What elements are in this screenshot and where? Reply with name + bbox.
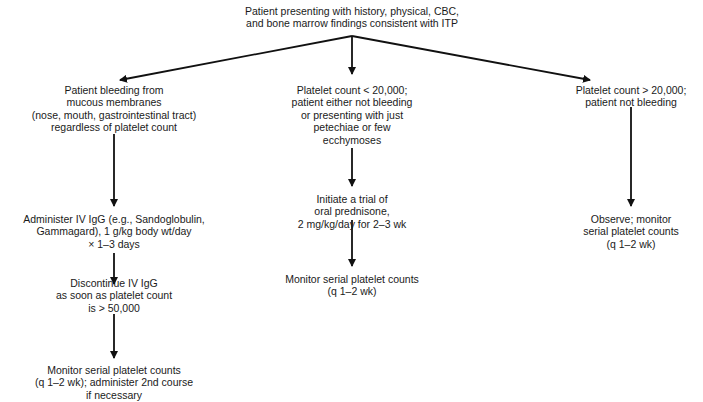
right-node-observe: Observe; monitor serial platelet counts … xyxy=(561,213,701,250)
middle-node-prednisone: Initiate a trial of oral prednisone, 2 m… xyxy=(272,193,432,230)
left-node-monitor-second-course: Monitor serial platelet counts (q 1–2 wk… xyxy=(4,364,224,401)
left-node-discontinue-ivig: Discontinue IV IgG as soon as platelet c… xyxy=(4,277,224,314)
left-node-bleeding-mucous: Patient bleeding from mucous membranes (… xyxy=(4,84,224,134)
root-node: Patient presenting with history, physica… xyxy=(202,5,502,30)
arrow-root-to-right xyxy=(352,36,590,80)
right-node-platelet-gt-20000: Platelet count > 20,000; patient not ble… xyxy=(561,84,701,109)
left-node-administer-ivig: Administer IV IgG (e.g., Sandoglobulin, … xyxy=(4,213,224,250)
middle-node-platelet-lt-20000: Platelet count < 20,000; patient either … xyxy=(272,84,432,146)
middle-node-monitor: Monitor serial platelet counts (q 1–2 wk… xyxy=(262,273,442,298)
arrow-root-to-left xyxy=(120,36,352,80)
